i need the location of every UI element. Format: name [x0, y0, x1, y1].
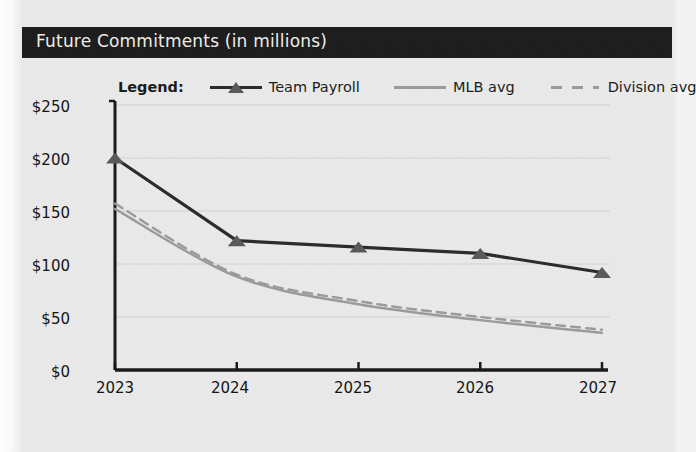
series-line-mlb-avg: [115, 209, 602, 333]
legend-title: Legend:: [118, 79, 184, 95]
chart-legend: Legend: Team Payroll MLB avg Division av…: [118, 76, 696, 98]
legend-swatch-division-avg: [549, 80, 601, 94]
legend-label-mlb-avg: MLB avg: [453, 79, 515, 95]
gridlines: [115, 105, 610, 317]
axis-lines: [109, 101, 608, 370]
legend-entry-division-avg: Division avg: [549, 79, 696, 95]
triangle-marker-icon: [228, 82, 244, 93]
legend-entry-mlb-avg: MLB avg: [394, 79, 515, 95]
series-line-division-avg: [115, 204, 602, 330]
series-line-team-payroll: [115, 158, 602, 272]
legend-entry-team-payroll: Team Payroll: [210, 79, 360, 95]
legend-swatch-mlb-avg: [394, 80, 446, 94]
series-markers: [106, 153, 611, 278]
legend-line-dashed-gray: [551, 86, 599, 89]
legend-swatch-team-payroll: [210, 80, 262, 94]
legend-label-division-avg: Division avg: [608, 79, 696, 95]
legend-line-solid-gray: [394, 86, 446, 89]
legend-label-team-payroll: Team Payroll: [269, 79, 360, 95]
